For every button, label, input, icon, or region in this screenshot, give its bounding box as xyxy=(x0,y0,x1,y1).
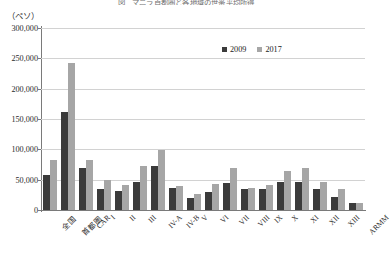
bar-2017-IX xyxy=(266,185,272,210)
bar-2009-XI xyxy=(295,182,301,210)
x-axis-tick-label: II xyxy=(127,213,137,223)
bar-2009-IV-A xyxy=(151,166,157,210)
legend-label: 2017 xyxy=(265,45,281,54)
plot-area xyxy=(41,28,365,210)
x-axis-tick-label: ARMM xyxy=(367,213,390,236)
bar-2009-V xyxy=(187,198,193,210)
bar-2017-VIII xyxy=(248,188,254,210)
bar-2017-全国 xyxy=(50,160,56,210)
x-axis-tick-label: IV-B xyxy=(184,213,201,230)
y-axis-tick-mark xyxy=(38,89,41,90)
gridline xyxy=(41,149,365,150)
y-axis-tick-mark xyxy=(38,149,41,150)
gridline xyxy=(41,28,365,29)
bar-2009-I xyxy=(97,189,103,210)
bar-2009-X xyxy=(277,182,283,210)
bar-2009-IX xyxy=(259,189,265,210)
bar-2017-I xyxy=(104,180,110,210)
legend-swatch-icon xyxy=(222,47,227,52)
bar-2017-XII xyxy=(320,182,326,211)
bar-2009-全国 xyxy=(43,175,49,210)
bar-2009-CAR xyxy=(79,168,85,210)
y-axis-tick-mark xyxy=(38,28,41,29)
y-axis-tick-label: 200,000 xyxy=(0,84,38,93)
y-axis-tick-label: 50,000 xyxy=(0,175,38,184)
y-axis-tick-label: 0 xyxy=(0,206,38,215)
bar-2017-X xyxy=(284,171,290,210)
y-axis-tick-label: 300,000 xyxy=(0,24,38,33)
bar-2009-首都圏 xyxy=(61,112,67,210)
x-axis-tick-label: XI xyxy=(308,213,320,225)
bar-2017-CAR xyxy=(86,160,92,210)
bar-2009-ARMM xyxy=(349,203,355,210)
y-axis-tick-mark xyxy=(38,180,41,181)
gridline xyxy=(41,89,365,90)
bar-2009-II xyxy=(115,191,121,210)
x-axis-tick-label: VI xyxy=(218,213,230,225)
gridline xyxy=(41,58,365,59)
bar-2009-VII xyxy=(223,183,229,210)
bar-2009-XII xyxy=(313,189,319,210)
y-axis-tick-mark xyxy=(38,58,41,59)
bar-2009-IV-B xyxy=(169,188,175,210)
legend-label: 2009 xyxy=(230,45,246,54)
y-axis-tick-label: 150,000 xyxy=(0,115,38,124)
bar-2017-VI xyxy=(212,184,218,210)
x-axis-line xyxy=(41,210,366,211)
bar-2017-ARMM xyxy=(356,203,362,210)
bar-2017-IV-B xyxy=(176,186,182,210)
legend-item-2017: 2017 xyxy=(257,45,281,54)
x-axis-tick-label: VII xyxy=(237,213,251,227)
y-axis-tick-label: 100,000 xyxy=(0,145,38,154)
chart-legend: 20092017 xyxy=(222,45,282,54)
x-axis-tick-label: V xyxy=(200,213,210,223)
bar-2009-VI xyxy=(205,192,211,210)
y-axis-tick-label: 250,000 xyxy=(0,54,38,63)
y-axis-tick-mark xyxy=(38,119,41,120)
bar-2009-XIII xyxy=(331,197,337,210)
chart-title: 図 マニラ首都圏と各地域の世帯平均所得 xyxy=(0,0,372,5)
bar-2017-V xyxy=(194,194,200,210)
x-axis-tick-label: X xyxy=(290,213,300,223)
bar-2017-XIII xyxy=(338,189,344,210)
legend-item-2009: 2009 xyxy=(222,45,246,54)
x-axis-tick-label: IX xyxy=(272,213,284,225)
bar-2017-II xyxy=(122,185,128,210)
gridline xyxy=(41,119,365,120)
legend-swatch-icon xyxy=(257,47,262,52)
x-axis-tick-label: III xyxy=(146,213,158,225)
bar-2009-III xyxy=(133,182,139,210)
bar-2009-VIII xyxy=(241,189,247,210)
bar-2017-XI xyxy=(302,168,308,210)
x-axis-tick-label: XIII xyxy=(346,213,362,229)
y-axis-tick-mark xyxy=(38,210,41,211)
y-axis-unit-label: （ペソ） xyxy=(7,9,39,21)
x-axis-tick-label: VIII xyxy=(256,213,272,229)
x-axis-tick-label: IV-A xyxy=(166,213,183,230)
bar-2017-VII xyxy=(230,168,236,210)
bar-2017-首都圏 xyxy=(68,63,74,210)
bar-2017-III xyxy=(140,166,146,210)
bar-2017-IV-A xyxy=(158,150,164,210)
x-axis-tick-label: XII xyxy=(327,213,341,227)
x-axis-tick-label: 全国 xyxy=(59,213,78,232)
